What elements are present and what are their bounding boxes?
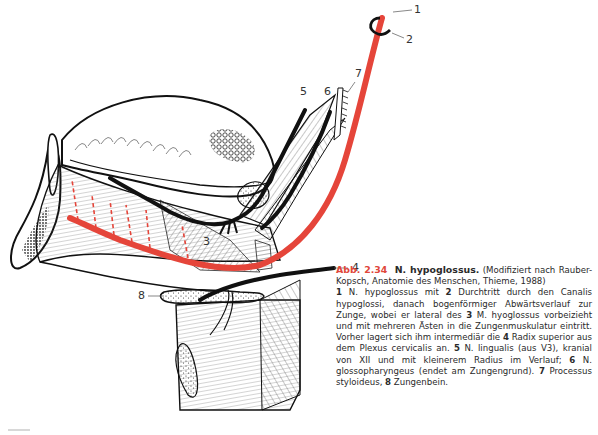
label-8: 8	[138, 290, 145, 301]
caption-text-8: Zungenbein.	[391, 377, 448, 387]
label-6: 6	[324, 86, 331, 97]
label-7: 7	[355, 68, 362, 79]
figure-caption: Abb. 2.34 N. hypoglossus. (Modifiziert n…	[336, 264, 592, 388]
label-1: 1	[414, 4, 421, 15]
label-3: 3	[203, 236, 210, 247]
figure-title: N. hypoglossus.	[395, 264, 480, 275]
caption-text-1: N. hypoglossus mit	[342, 287, 446, 297]
page-edge-mark	[8, 429, 30, 431]
label-5: 5	[300, 86, 307, 97]
label-2: 2	[406, 34, 413, 45]
caption-body: 1 N. hypoglossus mit 2 Durchtritt durch …	[336, 287, 592, 388]
figure-number: Abb. 2.34	[336, 264, 387, 275]
caption-heading: Abb. 2.34 N. hypoglossus. (Modifiziert n…	[336, 264, 592, 287]
